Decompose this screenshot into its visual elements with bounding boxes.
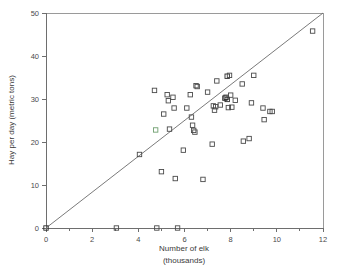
data-point-marker (228, 93, 232, 97)
data-point-marker (233, 98, 237, 102)
data-point-marker (240, 82, 244, 86)
data-point-marker (172, 106, 176, 110)
data-point-marker (247, 136, 251, 140)
data-points-group (44, 29, 315, 230)
data-point-marker (262, 117, 266, 121)
y-tick-label: 50 (31, 9, 39, 18)
data-point-marker (152, 88, 156, 92)
x-tick-label: 10 (273, 235, 281, 244)
data-point-marker (241, 139, 245, 143)
y-tick-label: 20 (31, 138, 39, 147)
x-axis-title: Number of elk (159, 244, 210, 253)
data-point-marker (185, 106, 189, 110)
data-point-marker (210, 142, 214, 146)
data-point-marker (173, 176, 177, 180)
x-axis-title-line2: (thousands) (163, 256, 206, 265)
x-tick-label: 4 (136, 235, 140, 244)
plot-area: 01020304050 024681012 Number of elk (tho… (0, 0, 344, 269)
scatter-chart: 01020304050 024681012 Number of elk (tho… (0, 0, 344, 269)
data-point-marker (215, 79, 219, 83)
x-axis-ticks: 024681012 (44, 228, 327, 244)
y-tick-label: 0 (35, 224, 39, 233)
data-point-marker (201, 177, 205, 181)
y-tick-label: 30 (31, 95, 39, 104)
data-point-marker (193, 130, 197, 134)
reference-line-group (46, 13, 323, 228)
x-tick-label: 0 (44, 235, 48, 244)
data-point-marker (205, 90, 209, 94)
data-point-marker (249, 101, 253, 105)
data-point-marker (181, 148, 185, 152)
y-axis-ticks: 01020304050 (31, 9, 46, 233)
y-tick-label: 10 (31, 181, 39, 190)
x-tick-label: 6 (182, 235, 186, 244)
data-point-marker (252, 73, 256, 77)
data-point-marker (153, 128, 157, 132)
data-point-marker (159, 169, 163, 173)
data-point-marker (190, 123, 194, 127)
data-point-marker (218, 103, 222, 107)
data-point-marker (166, 99, 170, 103)
y-tick-label: 40 (31, 52, 39, 61)
data-point-marker (165, 93, 169, 97)
data-point-marker (188, 93, 192, 97)
x-tick-label: 2 (90, 235, 94, 244)
y-axis-title: Hay per day (metric tons) (7, 75, 16, 165)
x-tick-label: 8 (229, 235, 233, 244)
data-point-marker (192, 128, 196, 132)
diagonal-reference-line (46, 13, 323, 228)
data-point-marker (171, 95, 175, 99)
data-point-marker (310, 29, 314, 33)
data-point-marker (162, 112, 166, 116)
x-tick-label: 12 (319, 235, 327, 244)
data-point-marker (261, 106, 265, 110)
